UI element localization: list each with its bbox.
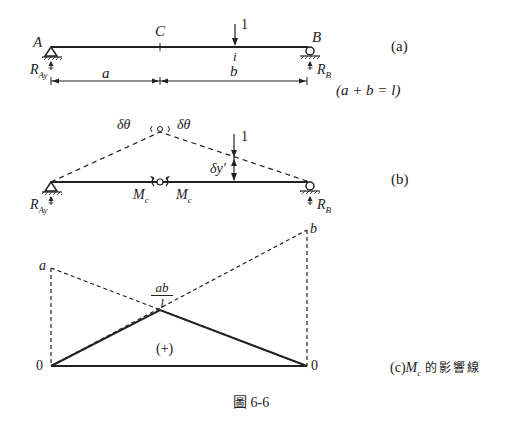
reaction-b-label: RB [317,63,331,80]
reaction-b-label-b: RB [317,198,331,215]
pin-support-a2-icon [42,182,62,195]
rotation-right-label: δθ [177,118,190,132]
panel-c-influence-line [51,230,307,366]
unit-load-arrow-a-icon [232,24,238,46]
reaction-arrow-a2-icon [49,196,54,205]
deflected-shape [51,132,310,182]
right-zero-label: 0 [311,359,318,373]
pin-support-a-icon [42,47,62,60]
reaction-ay-label: RAy [30,63,48,80]
panel-c-tag: (c)Mc 的影響線 [390,361,481,378]
roller-support-b-icon [300,47,320,59]
deflection-label: δy′ [210,162,226,176]
right-ordinate-b-label: b [310,222,317,236]
reaction-arrow-b-icon [308,61,313,70]
dimension-a-label: a [102,66,110,81]
panel-a-beam-diagram [42,24,320,85]
length-relation-label: (a + b = l) [336,83,400,98]
unit-load-label-b: 1 [241,130,248,144]
reaction-ay-label-b: RAy [30,198,48,215]
support-b-label: B [312,30,321,45]
unit-load-label-a: 1 [241,18,248,32]
reaction-arrow-b2-icon [308,196,313,205]
panel-b-tag: (b) [391,172,409,187]
dimension-line [51,77,307,85]
left-ordinate-a-label: a [39,259,46,273]
positive-sign-label: (+) [156,342,173,356]
moment-right-label: Mc [176,188,192,205]
left-zero-label: 0 [36,359,43,373]
moment-left-label: Mc [133,188,149,205]
rotation-left-label: δθ [117,118,130,132]
peak-value-label: ab l [151,281,173,310]
reaction-arrow-a-icon [49,61,54,70]
roller-support-b2-icon [300,182,320,194]
influence-line [51,310,307,366]
load-point-i-label: i [233,50,237,63]
support-a-label: A [33,35,42,50]
hinge-icon [157,179,163,185]
panel-a-tag: (a) [391,39,408,54]
point-c-label: C [155,24,165,39]
dimension-b-label: b [230,64,238,79]
figure-caption: 圖 6-6 [233,396,269,410]
peak-hinge-icon [158,127,163,132]
